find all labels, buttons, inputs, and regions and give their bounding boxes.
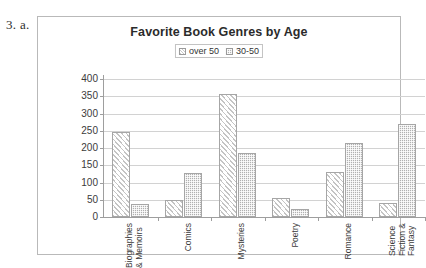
bar-over-50 <box>165 200 183 217</box>
bar-30-50 <box>398 124 416 217</box>
x-tick-mark <box>158 217 159 221</box>
bar-over-50 <box>219 94 237 217</box>
bar-30-50 <box>131 204 149 217</box>
y-tick-label: 350 <box>81 91 98 101</box>
y-tick-label: 50 <box>87 195 98 205</box>
y-tick-label: 300 <box>81 109 98 119</box>
legend-item-30-50: 30-50 <box>226 46 259 56</box>
legend-label-over-50: over 50 <box>189 46 219 56</box>
bar-over-50 <box>272 198 290 217</box>
bar-group <box>372 79 426 217</box>
question-number-label: 3. a. <box>6 17 30 33</box>
bar-group <box>265 79 319 217</box>
y-tick-label: 250 <box>81 126 98 136</box>
bar-over-50 <box>326 172 344 217</box>
bar-30-50 <box>238 153 256 217</box>
x-axis-category-label: Mysteries <box>237 223 247 259</box>
legend-item-over-50: over 50 <box>179 46 219 56</box>
legend-label-30-50: 30-50 <box>236 46 259 56</box>
x-axis-category-label: Poetry <box>291 223 301 248</box>
chart-legend: over 50 30-50 <box>175 44 263 58</box>
y-tick-mark <box>100 217 104 218</box>
y-tick-label: 100 <box>81 178 98 188</box>
x-axis-category-label: Romance <box>344 223 354 259</box>
x-tick-mark <box>372 217 373 221</box>
bar-group <box>318 79 372 217</box>
y-tick-label: 150 <box>81 160 98 170</box>
y-tick-label: 0 <box>92 212 98 222</box>
y-tick-label: 400 <box>81 74 98 84</box>
chart-frame: Favorite Book Genres by Age over 50 30-5… <box>37 16 401 255</box>
legend-swatch-30-50 <box>226 48 233 55</box>
bar-over-50 <box>112 132 130 217</box>
x-tick-mark <box>265 217 266 221</box>
legend-swatch-over-50 <box>179 48 186 55</box>
bar-30-50 <box>184 173 202 217</box>
bar-group <box>104 79 158 217</box>
plot-area: 050100150200250300350400 Biographies & M… <box>104 79 425 217</box>
bar-30-50 <box>345 143 363 217</box>
x-tick-mark <box>211 217 212 221</box>
x-axis-category-label: Comics <box>184 223 194 251</box>
bar-group <box>211 79 265 217</box>
chart-title: Favorite Book Genres by Age <box>38 25 400 39</box>
bar-group <box>158 79 212 217</box>
bar-over-50 <box>379 203 397 217</box>
x-tick-mark <box>318 217 319 221</box>
x-axis-category-label: Biographies & Memoirs <box>125 223 144 268</box>
y-tick-label: 200 <box>81 143 98 153</box>
bar-30-50 <box>291 209 309 217</box>
x-axis-category-label: Science Fiction & Fantasy <box>388 223 417 256</box>
